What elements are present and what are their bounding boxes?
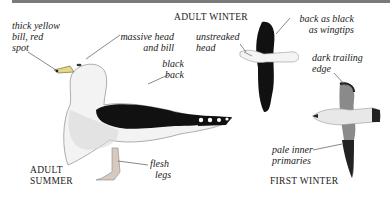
label-dark-trailing-edge: dark trailing edge [312, 52, 363, 74]
label-flesh-legs: flesh legs [150, 158, 171, 180]
adult-summer-gull-illustration [54, 64, 232, 180]
label-line: head [196, 42, 240, 53]
caption-first-winter: FIRST WINTER [270, 176, 338, 187]
label-line: thick yellow [12, 20, 60, 31]
label-back-as-black: back as black as wingtips [290, 13, 354, 35]
label-massive-head: massive head and bill [112, 31, 174, 53]
label-line: spot [12, 42, 60, 53]
label-unstreaked-head: unstreaked head [196, 31, 240, 53]
label-thick-yellow-bill: thick yellow bill, red spot [12, 20, 60, 53]
label-line: and bill [112, 42, 174, 53]
label-black-back: black back [140, 58, 184, 80]
label-line: dark trailing [312, 52, 363, 63]
label-line: unstreaked [196, 31, 240, 42]
label-line: edge [312, 63, 363, 74]
caption-adult-summer: ADULT SUMMER [30, 165, 73, 187]
label-line: as wingtips [290, 24, 354, 35]
label-line: back [140, 69, 184, 80]
label-line: black [140, 58, 184, 69]
label-line: back as black [290, 13, 354, 24]
first-winter-gull-illustration [312, 82, 381, 178]
caption-adult-winter: ADULT WINTER [174, 12, 248, 23]
label-line: legs [150, 169, 171, 180]
label-line: pale inner [272, 144, 313, 155]
label-pale-inner-primaries: pale inner primaries [272, 144, 313, 166]
caption-line: ADULT [30, 165, 73, 176]
label-line: bill, red [12, 31, 60, 42]
label-line: primaries [272, 155, 313, 166]
label-line: flesh [150, 158, 171, 169]
label-line: massive head [112, 31, 174, 42]
adult-winter-gull-illustration [240, 22, 299, 112]
caption-line: SUMMER [30, 176, 73, 187]
